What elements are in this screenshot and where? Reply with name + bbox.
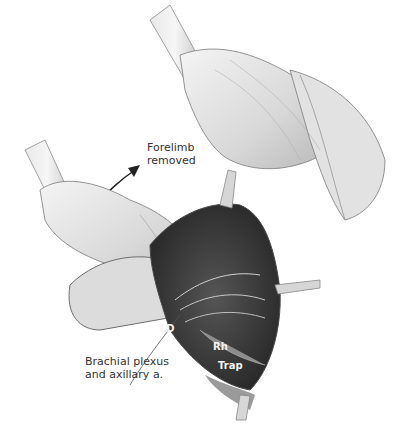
label-brachial-plexus: Brachial plexus and axillary a. bbox=[85, 355, 169, 381]
label-line: and axillary a. bbox=[85, 368, 169, 381]
label-rh: Rh bbox=[213, 340, 228, 353]
label-trap: Trap bbox=[218, 359, 243, 372]
illustration: Forelimb removed Brachial plexus and axi… bbox=[0, 0, 402, 432]
label-line: Brachial plexus bbox=[85, 355, 169, 368]
label-ld: LD bbox=[160, 322, 175, 335]
surgical-cavity bbox=[150, 204, 280, 410]
anatomy-drawing bbox=[0, 0, 402, 432]
removed-forelimb bbox=[150, 5, 385, 220]
label-forelimb-removed: Forelimb removed bbox=[147, 141, 196, 167]
label-line: Forelimb bbox=[147, 141, 196, 154]
label-line: removed bbox=[147, 154, 196, 167]
